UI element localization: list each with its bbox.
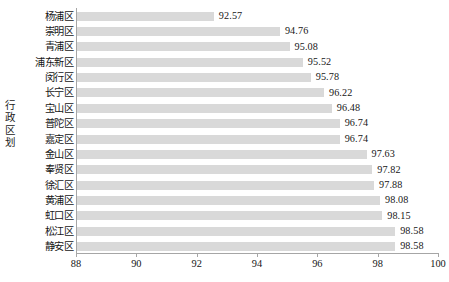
x-axis-tick-label: 100	[418, 258, 449, 270]
bar-value-label: 98.58	[400, 241, 423, 251]
x-axis-tick-label: 96	[297, 258, 337, 270]
category-label: 徐汇区	[18, 180, 74, 191]
category-label: 嘉定区	[18, 134, 74, 145]
bar	[76, 12, 214, 21]
x-axis-tick-label: 92	[177, 258, 217, 270]
bar	[76, 88, 324, 97]
bar	[76, 73, 311, 82]
x-axis-tick	[136, 253, 137, 257]
bar	[76, 242, 395, 251]
category-label: 青浦区	[18, 41, 74, 52]
x-axis-tick-label: 90	[116, 258, 156, 270]
x-axis-tick	[197, 253, 198, 257]
bar-value-label: 96.74	[345, 118, 368, 128]
category-label: 杨浦区	[18, 11, 74, 22]
x-axis-tick-label: 88	[56, 258, 96, 270]
category-axis-labels: 杨浦区崇明区青浦区浦东新区闵行区长宁区宝山区普陀区嘉定区金山区奉贤区徐汇区黄浦区…	[18, 8, 74, 253]
bar-value-label: 95.78	[316, 72, 339, 82]
category-label: 金山区	[18, 149, 74, 160]
bar-value-label: 95.08	[295, 42, 318, 52]
bar-value-label: 98.58	[400, 226, 423, 236]
x-axis-tick	[76, 253, 77, 257]
x-axis-tick	[257, 253, 258, 257]
category-label: 奉贤区	[18, 164, 74, 175]
category-label: 静安区	[18, 241, 74, 252]
bar-value-label: 98.15	[387, 211, 410, 221]
bar	[76, 165, 372, 174]
bar	[76, 135, 340, 144]
category-label: 长宁区	[18, 87, 74, 98]
bar-value-label: 92.57	[219, 11, 242, 21]
bar	[76, 119, 340, 128]
y-axis-line	[76, 8, 77, 253]
bar-value-label: 95.52	[308, 57, 331, 67]
category-label: 虹口区	[18, 210, 74, 221]
category-label: 黄浦区	[18, 195, 74, 206]
category-label: 宝山区	[18, 103, 74, 114]
category-label: 普陀区	[18, 118, 74, 129]
bar	[76, 196, 380, 205]
bar	[76, 211, 382, 220]
category-label: 闵行区	[18, 72, 74, 83]
bar-value-label: 96.48	[337, 103, 360, 113]
bar-value-label: 97.82	[377, 165, 400, 175]
bar-value-label: 97.63	[372, 149, 395, 159]
bar	[76, 227, 395, 236]
x-axis-tick	[317, 253, 318, 257]
bar-value-label: 96.22	[329, 88, 352, 98]
bar	[76, 27, 280, 36]
category-label: 浦东新区	[18, 57, 74, 68]
bar	[76, 58, 303, 67]
bar-chart: 行政区划 杨浦区崇明区青浦区浦东新区闵行区长宁区宝山区普陀区嘉定区金山区奉贤区徐…	[0, 0, 449, 282]
bar	[76, 42, 290, 51]
bar-value-label: 98.08	[385, 195, 408, 205]
bar	[76, 150, 367, 159]
bar-value-label: 97.88	[379, 180, 402, 190]
bar	[76, 104, 332, 113]
x-axis-tick	[438, 253, 439, 257]
y-axis-title: 行政区划	[2, 100, 18, 150]
category-label: 松江区	[18, 226, 74, 237]
category-label: 崇明区	[18, 26, 74, 37]
x-axis-tick-label: 98	[358, 258, 398, 270]
x-axis-tick-label: 94	[237, 258, 277, 270]
bar-value-label: 96.74	[345, 134, 368, 144]
x-axis-tick	[378, 253, 379, 257]
bar-value-label: 94.76	[285, 26, 308, 36]
bar	[76, 181, 374, 190]
plot-area: 92.5794.7695.0895.5295.7896.2296.4896.74…	[76, 8, 438, 253]
